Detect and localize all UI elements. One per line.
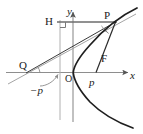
label-point-q: Q [19, 60, 27, 71]
geometry-figure: P H y Q O F x p −p [0, 0, 143, 134]
label-point-h: H [45, 16, 53, 27]
label-point-p: P [104, 10, 110, 21]
label-directrix-abscissa: −p [30, 85, 43, 96]
parabola-curve [73, 8, 137, 128]
label-origin: O [65, 74, 72, 84]
point-P-dot [114, 21, 116, 23]
label-focus-abscissa: p [89, 77, 95, 88]
label-axis-x: x [130, 70, 135, 81]
right-angle-marker-H [60, 22, 66, 28]
segment-QP [26, 22, 116, 73]
label-axis-y: y [67, 6, 72, 17]
label-focus-f: F [101, 53, 107, 64]
